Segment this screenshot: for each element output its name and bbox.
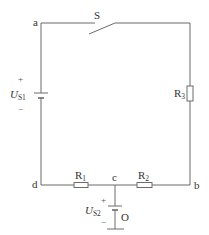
- r2-label: R2: [138, 169, 149, 183]
- us1-plus-sign: +: [18, 74, 23, 84]
- resistor-r3: [187, 86, 193, 101]
- resistor-r2: [137, 183, 152, 188]
- switch-label: S: [94, 9, 100, 21]
- us1-label: US1: [10, 88, 26, 102]
- node-label-a: a: [33, 16, 38, 28]
- node-label-c: c: [112, 171, 117, 183]
- us2-minus-sign: −: [101, 217, 106, 227]
- us2-plus-sign: +: [101, 195, 106, 205]
- ground-label: O: [121, 211, 129, 223]
- resistor-r1: [74, 183, 88, 188]
- us2-label: US2: [85, 204, 101, 218]
- r1-subscript: 1: [82, 174, 86, 183]
- us1-subscript: S1: [18, 93, 26, 102]
- r2-subscript: 2: [145, 174, 149, 183]
- r1-label: R1: [75, 169, 86, 183]
- switch-blade: [89, 23, 115, 34]
- us2-subscript: S2: [93, 209, 101, 218]
- circuit-diagram: a S d c b O + US1 − + US2 − R1 R2 R3: [0, 0, 209, 235]
- node-label-b: b: [194, 179, 200, 191]
- r3-subscript: 3: [181, 92, 185, 101]
- us1-minus-sign: −: [18, 104, 23, 114]
- r3-label: R3: [174, 87, 185, 101]
- node-label-d: d: [32, 178, 38, 190]
